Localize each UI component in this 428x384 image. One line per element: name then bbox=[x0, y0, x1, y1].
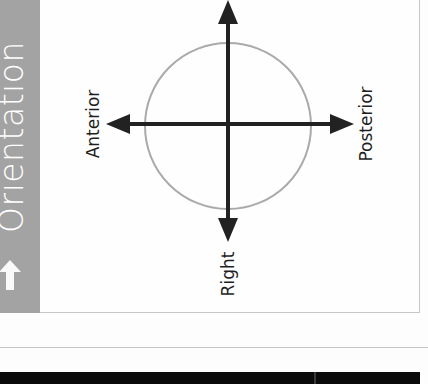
label-anterior: Anterior bbox=[85, 90, 102, 159]
bottom-bar bbox=[0, 372, 420, 384]
label-right: Right bbox=[220, 252, 237, 297]
label-posterior: Posterior bbox=[358, 86, 375, 161]
bottom-bar-separator bbox=[314, 372, 316, 384]
arrow-left-head bbox=[106, 114, 130, 134]
divider-line bbox=[0, 347, 428, 348]
arrow-right-head bbox=[330, 114, 354, 134]
arrow-down-head bbox=[218, 218, 238, 242]
arrow-up-head bbox=[218, 0, 238, 24]
